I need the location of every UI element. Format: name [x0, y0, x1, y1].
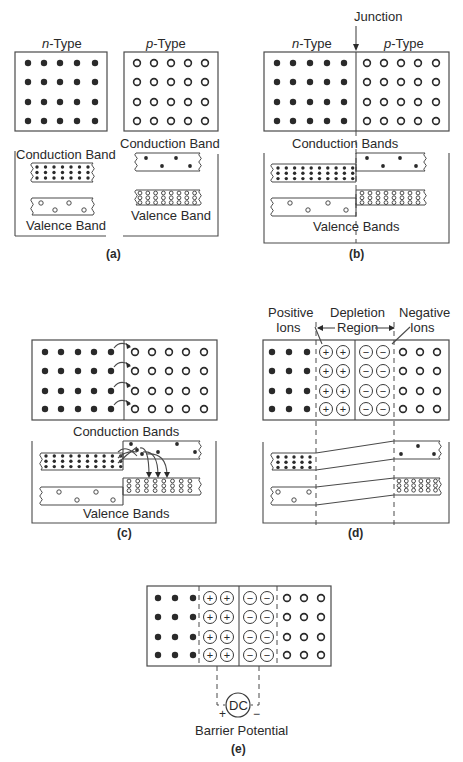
ion-sign: −: [363, 385, 369, 397]
n-valence-band-label: Valence Band: [26, 218, 106, 233]
electron-dot: [300, 461, 303, 464]
hole-circle: [168, 79, 175, 86]
ion-sign: −: [264, 592, 270, 604]
electron-dot: [74, 118, 80, 124]
caption-c: (c): [117, 526, 132, 540]
electron-dot: [91, 349, 97, 355]
arrowhead: [126, 343, 131, 349]
electron-dot: [92, 118, 98, 124]
caption-d: (d): [348, 526, 363, 540]
hole-circle: [193, 201, 197, 205]
electron-dot: [102, 454, 105, 457]
hole-circle: [368, 201, 372, 205]
lead-left: [217, 666, 225, 705]
band-break: [199, 153, 202, 171]
electron-dot: [108, 368, 114, 374]
hole-circle: [400, 196, 404, 200]
hole-circle: [433, 99, 440, 106]
electron-dot: [44, 465, 47, 468]
n-conduction-band: [31, 163, 95, 182]
hole-circle: [433, 79, 440, 86]
hole-circle: [145, 489, 149, 493]
hole-circle: [415, 60, 422, 67]
hole-circle: [185, 118, 192, 125]
electron-dot: [274, 118, 280, 124]
electron-dot: [190, 634, 196, 640]
electron-dot: [343, 166, 346, 169]
electron-dot: [155, 595, 161, 601]
hole-circle: [145, 479, 149, 483]
hole-circle: [381, 60, 388, 67]
electron-dot: [69, 165, 72, 168]
electron-dot: [44, 171, 47, 174]
electron-dot: [61, 165, 64, 168]
hole-circle: [138, 201, 142, 205]
hole-circle: [82, 208, 86, 212]
electron-dot: [343, 177, 346, 180]
hole-circle: [151, 79, 158, 86]
hole-circle: [201, 388, 208, 395]
hole-circle: [434, 349, 441, 356]
electron-dot: [78, 454, 81, 457]
band-break: [40, 453, 43, 470]
electron-dot: [42, 388, 48, 394]
hole-circle: [153, 489, 157, 493]
arrowhead: [126, 400, 131, 406]
ion-sign: +: [207, 611, 213, 623]
hole-circle: [154, 191, 158, 195]
hole-circle: [344, 208, 348, 212]
electron-dot: [140, 452, 144, 456]
electron-dot: [57, 79, 63, 85]
electron-dot: [86, 171, 89, 174]
electron-dot: [398, 156, 402, 160]
hole-circle: [384, 196, 388, 200]
hole-circle: [168, 118, 175, 125]
electron-dot: [381, 164, 385, 168]
electron-dot: [293, 172, 296, 175]
band-break: [439, 441, 442, 459]
ion-sign: +: [323, 385, 329, 397]
ion-sign: +: [340, 346, 346, 358]
band-break: [271, 198, 274, 216]
hole-circle: [318, 614, 325, 621]
band-break: [199, 190, 202, 205]
hole-circle: [166, 388, 173, 395]
electron-dot: [324, 79, 330, 85]
electron-dot: [25, 99, 31, 105]
electron-dot: [341, 79, 347, 85]
hole-circle: [408, 196, 412, 200]
hole-circle: [307, 490, 311, 494]
ion-sign: +: [224, 592, 230, 604]
electron-dot: [414, 164, 418, 168]
hole-circle: [392, 191, 396, 195]
electron-dot: [57, 118, 63, 124]
electron-dot: [324, 60, 330, 66]
hole-circle: [177, 191, 181, 195]
electron-dot: [78, 171, 81, 174]
electron-dot: [326, 166, 329, 169]
hole-circle: [134, 118, 141, 125]
junction-label: Junction: [354, 9, 402, 24]
electron-dot: [292, 455, 295, 458]
electron-dot: [341, 99, 347, 105]
hole-circle: [183, 368, 190, 375]
hole-circle: [168, 60, 175, 67]
electron-dot: [119, 465, 122, 468]
electron-dot: [69, 454, 72, 457]
electron-dot: [351, 172, 354, 175]
hole-circle: [301, 614, 308, 621]
band-break: [199, 441, 202, 459]
hole-circle: [384, 201, 388, 205]
hole-circle: [326, 201, 330, 205]
electron-dot: [307, 118, 313, 124]
electron-dot: [25, 79, 31, 85]
hole-circle: [149, 406, 156, 413]
hole-circle: [306, 208, 310, 212]
ion-sign: −: [264, 631, 270, 643]
electron-dot: [41, 60, 47, 66]
ion-sign: +: [340, 385, 346, 397]
p-valence-band-label: Valence Band: [131, 208, 211, 223]
electron-dot: [44, 176, 47, 179]
hole-circle: [151, 60, 158, 67]
electron-dot: [94, 454, 97, 457]
